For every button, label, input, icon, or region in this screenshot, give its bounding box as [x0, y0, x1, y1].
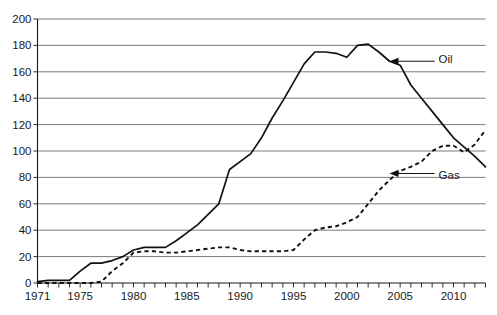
series-label-oil: Oil: [439, 53, 453, 65]
x-axis-tick-marks: [38, 283, 486, 288]
y-tick-label-180: 180: [12, 39, 31, 51]
y-tick-label-200: 200: [12, 13, 31, 25]
y-tick-label-120: 120: [12, 119, 31, 131]
y-tick-label-160: 160: [12, 66, 31, 78]
annotation-arrowhead-gas: [390, 170, 399, 177]
y-tick-label-100: 100: [12, 145, 31, 157]
series-label-gas: Gas: [439, 169, 460, 181]
x-tick-label-2005: 2005: [387, 290, 413, 302]
chart-container: 020406080100120140160180200 197119751980…: [0, 0, 497, 315]
y-tick-label-0: 0: [25, 277, 31, 289]
x-tick-label-1971: 1971: [25, 290, 51, 302]
x-tick-label-1990: 1990: [227, 290, 253, 302]
x-tick-label-2010: 2010: [441, 290, 467, 302]
x-tick-label-1985: 1985: [174, 290, 200, 302]
y-tick-label-60: 60: [19, 198, 32, 210]
x-axis-tick-labels: 197119751980198519901995200020052010: [25, 290, 467, 302]
y-axis-tick-labels: 020406080100120140160180200: [12, 13, 37, 289]
x-tick-label-1975: 1975: [67, 290, 93, 302]
y-tick-label-20: 20: [19, 251, 32, 263]
x-tick-label-1995: 1995: [281, 290, 307, 302]
y-tick-label-140: 140: [12, 92, 31, 104]
x-tick-label-1980: 1980: [121, 290, 147, 302]
series-line-gas: [38, 130, 486, 283]
y-tick-label-40: 40: [19, 224, 32, 236]
y-tick-label-80: 80: [19, 171, 32, 183]
x-tick-label-2000: 2000: [334, 290, 360, 302]
line-chart: 020406080100120140160180200 197119751980…: [0, 0, 497, 315]
